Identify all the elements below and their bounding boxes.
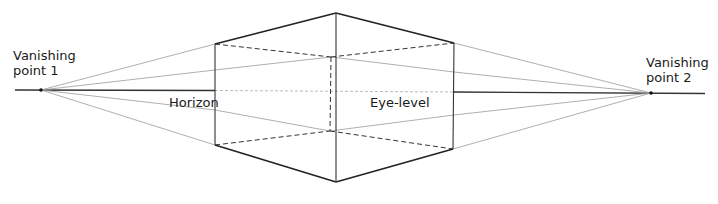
- vp2-construction-lines: [453, 43, 651, 149]
- perspective-drawing: [0, 0, 718, 204]
- vp1-label-line1: Vanishing: [13, 48, 76, 63]
- two-point-perspective-diagram: Vanishing point 1 Vanishing point 2 Hori…: [0, 0, 718, 204]
- eye-level-line: [215, 91, 454, 93]
- eye-level-label-text: Eye-level: [370, 95, 430, 110]
- vanishing-point-2-marker: [649, 91, 653, 95]
- vp2-label-line2: point 2: [646, 70, 709, 85]
- horizon-line-right: [454, 92, 705, 94]
- vanishing-point-2-label: Vanishing point 2: [646, 55, 709, 85]
- vp2-label-line1: Vanishing: [646, 55, 709, 70]
- horizon-label: Horizon: [169, 95, 219, 110]
- vanishing-point-1-marker: [39, 88, 43, 92]
- vanishing-point-1-label: Vanishing point 1: [13, 48, 76, 78]
- horizon-label-text: Horizon: [169, 95, 219, 110]
- eye-level-label: Eye-level: [370, 95, 430, 110]
- vp1-label-line2: point 1: [13, 63, 76, 78]
